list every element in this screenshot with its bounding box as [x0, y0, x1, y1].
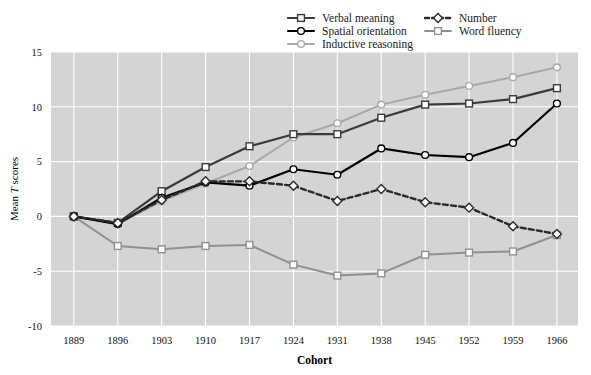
- x-axis-tick-label: 1938: [371, 335, 392, 346]
- data-point-marker: [510, 74, 517, 81]
- x-axis-tick-label: 1903: [151, 335, 172, 346]
- line-chart: 151050-5-1018891896190319101917192419311…: [0, 0, 591, 375]
- legend-marker: [298, 28, 305, 35]
- data-point-marker: [334, 131, 341, 138]
- y-axis-tick-label: 10: [32, 102, 43, 113]
- x-axis-tick-label: 1945: [415, 335, 436, 346]
- x-axis-title: Cohort: [297, 354, 332, 366]
- plot-background: [51, 52, 578, 326]
- y-axis-title-part: Mean: [8, 193, 20, 221]
- data-point-marker: [554, 64, 561, 71]
- data-point-marker: [378, 114, 385, 121]
- legend-label: Word fluency: [459, 25, 522, 38]
- x-axis-tick-label: 1910: [195, 335, 216, 346]
- data-point-marker: [422, 251, 429, 258]
- y-axis-tick-label: -5: [33, 266, 42, 277]
- data-point-marker: [334, 272, 341, 279]
- data-point-marker: [246, 143, 253, 150]
- data-point-marker: [422, 152, 429, 159]
- legend-marker: [298, 41, 305, 48]
- legend-item-spatial-orientation[interactable]: Spatial orientation: [288, 25, 407, 38]
- data-point-marker: [202, 243, 209, 250]
- data-point-marker: [246, 241, 253, 248]
- data-point-marker: [422, 91, 429, 98]
- x-axis-tick-label: 1889: [63, 335, 84, 346]
- y-axis-tick-label: 15: [32, 47, 43, 58]
- data-point-marker: [290, 131, 297, 138]
- x-axis-tick-label: 1959: [503, 335, 524, 346]
- x-axis-tick-label: 1966: [546, 335, 567, 346]
- x-axis-tick-label: 1896: [107, 335, 128, 346]
- y-axis-tick-label: 5: [37, 156, 42, 167]
- y-axis-title: Mean T scores: [8, 157, 20, 221]
- data-point-marker: [114, 243, 121, 250]
- data-point-marker: [334, 171, 341, 178]
- legend-item-inductive-reasoning[interactable]: Inductive reasoning: [288, 38, 413, 51]
- y-axis-tick-label: -10: [28, 321, 42, 332]
- chart-legend: Verbal meaningSpatial orientationInducti…: [288, 12, 522, 51]
- data-point-marker: [466, 154, 473, 161]
- legend-label: Spatial orientation: [322, 25, 407, 38]
- legend-item-number[interactable]: Number: [425, 12, 497, 24]
- data-point-marker: [378, 270, 385, 277]
- data-point-marker: [554, 100, 561, 107]
- legend-marker: [434, 14, 443, 23]
- data-point-marker: [466, 249, 473, 256]
- data-point-marker: [378, 145, 385, 152]
- data-point-marker: [466, 83, 473, 90]
- legend-label: Verbal meaning: [322, 12, 395, 25]
- data-point-marker: [510, 248, 517, 255]
- x-axis-tick-label: 1924: [283, 335, 305, 346]
- legend-item-word-fluency[interactable]: Word fluency: [425, 25, 522, 38]
- data-point-marker: [158, 188, 165, 195]
- data-point-marker: [290, 166, 297, 173]
- x-axis-tick-label: 1952: [459, 335, 480, 346]
- data-point-marker: [202, 164, 209, 171]
- chart-container: 151050-5-1018891896190319101917192419311…: [0, 0, 591, 375]
- data-point-marker: [554, 85, 561, 92]
- legend-label: Number: [459, 12, 497, 24]
- legend-marker: [435, 28, 442, 35]
- data-point-marker: [510, 96, 517, 103]
- data-point-marker: [378, 101, 385, 108]
- data-point-marker: [466, 100, 473, 107]
- y-axis-tick-label: 0: [37, 211, 42, 222]
- data-point-marker: [290, 261, 297, 268]
- x-axis-tick-label: 1917: [239, 335, 260, 346]
- y-axis-title-text: Mean T scores: [8, 157, 20, 221]
- data-point-marker: [510, 140, 517, 147]
- data-point-marker: [334, 120, 341, 127]
- x-axis-tick-label: 1931: [327, 335, 348, 346]
- legend-label: Inductive reasoning: [322, 38, 413, 51]
- data-point-marker: [158, 246, 165, 253]
- legend-item-verbal-meaning[interactable]: Verbal meaning: [288, 12, 395, 25]
- data-point-marker: [246, 163, 253, 170]
- legend-marker: [298, 15, 305, 22]
- y-axis-title-part: scores: [8, 157, 20, 187]
- data-point-marker: [422, 101, 429, 108]
